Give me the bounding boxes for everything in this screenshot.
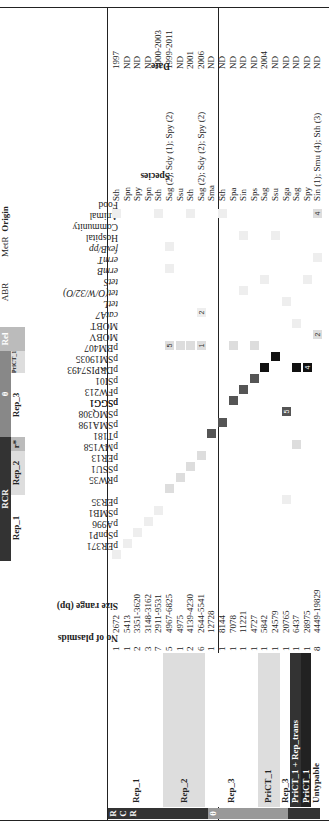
- matrix-cell: [229, 396, 238, 405]
- matrix-cell: [186, 341, 195, 350]
- column-mark: 1: [100, 367, 109, 371]
- matrix-cell: [144, 517, 153, 526]
- row-size: 11221: [239, 611, 248, 633]
- row-species: Spn: [144, 187, 153, 201]
- row-count: 1: [260, 647, 269, 652]
- row-count: 5: [165, 647, 174, 652]
- column-header: pSMB1: [88, 508, 118, 518]
- matrix-cell: 2: [313, 330, 322, 339]
- row-date: ND: [292, 56, 301, 69]
- matrix-cell: [239, 385, 248, 394]
- column-header: Hospital: [86, 233, 118, 243]
- row-count: 1: [282, 647, 291, 652]
- row-count: 1: [292, 647, 301, 652]
- matrix-cell: [271, 231, 280, 240]
- row-species: Sth: [154, 189, 163, 201]
- row-date: ND: [176, 56, 185, 69]
- row-date: 1999-2011: [165, 30, 174, 69]
- row-size: 5842: [260, 615, 269, 633]
- matrix-cell: [292, 440, 301, 449]
- row-count: 1: [207, 647, 216, 652]
- column-header: pBM407: [84, 343, 118, 353]
- row-species: Sma: [207, 185, 216, 201]
- row-date: 2000-2003: [154, 30, 163, 69]
- row-species: Spy: [303, 187, 312, 201]
- matrix-cell: [112, 550, 121, 559]
- row-date: 2004: [260, 51, 269, 69]
- row-date: ND: [303, 56, 312, 69]
- matrix-cell: [303, 275, 312, 284]
- column-header: pSMQ308: [78, 409, 118, 419]
- matrix-cell: [123, 539, 132, 548]
- row-species: Sps: [250, 188, 259, 201]
- column-header: Community: [73, 222, 118, 232]
- row-species: Sga: [282, 188, 291, 202]
- matrix-cell: [260, 363, 269, 372]
- row-count: 8: [313, 647, 322, 652]
- row-count: 1: [303, 647, 312, 652]
- row-species: Spy: [133, 187, 142, 201]
- matrix-cell: [133, 528, 142, 537]
- matrix-cell: 5: [165, 341, 174, 350]
- column-header: pRW35: [89, 475, 118, 485]
- column-header: pSMA198: [78, 420, 118, 430]
- matrix-cell: [250, 341, 259, 350]
- row-size: 5413: [123, 615, 132, 633]
- column-header: pSGG1: [89, 398, 118, 408]
- row-group-label: Rep_3: [280, 653, 291, 807]
- column-header: No of plasmids: [58, 633, 118, 643]
- matrix-cell: [282, 297, 291, 306]
- group-theta: θ: [0, 351, 11, 437]
- row-group-label: PriCT_1: [301, 653, 312, 807]
- row-size: 3351-3620: [133, 594, 142, 633]
- row-species: Ssu: [271, 188, 280, 201]
- row-species: Sth: [186, 189, 195, 201]
- matrix-cell: [197, 451, 206, 460]
- matrix-cell: [229, 341, 238, 350]
- matrix-cell: [165, 242, 174, 251]
- row-size: 2644-5541: [197, 594, 206, 633]
- matrix-cell: [186, 462, 195, 471]
- row-count: 2: [133, 647, 142, 652]
- group-origin: Origin: [0, 201, 25, 237]
- matrix-cell: [154, 209, 163, 218]
- row-size: 4727: [250, 615, 259, 633]
- row-count: 1: [218, 647, 227, 652]
- row-size: 4449-19829: [313, 590, 322, 634]
- column-header: ermT: [98, 255, 118, 265]
- row-count: 1: [112, 647, 121, 652]
- matrix-cell: [282, 495, 291, 504]
- row-species: Sag: [260, 188, 269, 202]
- row-date: ND: [144, 56, 153, 69]
- group-rcr: RCR: [0, 437, 11, 561]
- matrix-cell: [239, 286, 248, 295]
- matrix-cell: [313, 253, 322, 262]
- matrix-cell: [165, 264, 174, 273]
- matrix-cell: [292, 363, 301, 372]
- matrix-cell: [218, 209, 227, 218]
- column-header: tetL: [103, 299, 118, 309]
- column-header: fexB/pp: [89, 244, 118, 254]
- matrix-cell: [250, 374, 259, 383]
- matrix-cell: [260, 275, 269, 284]
- row-group-label: Untypable: [311, 653, 322, 807]
- row-size: 24579: [271, 611, 280, 634]
- row-size: 6437: [292, 615, 301, 633]
- row-species: Sag: [292, 188, 301, 202]
- row-count: 1: [176, 647, 185, 652]
- column-header: pDRPIS7493: [67, 365, 118, 375]
- row-date: ND: [271, 56, 280, 69]
- group-rel: Rel: [0, 327, 25, 351]
- row-count: 1: [123, 647, 132, 652]
- row-date: ND: [229, 56, 238, 69]
- row-size: 4967-6825: [165, 594, 174, 633]
- column-header: pT181: [93, 431, 118, 441]
- row-group-label: Rep_3: [205, 653, 258, 807]
- column-header: tetS: [104, 277, 118, 287]
- matrix-cell: [186, 209, 195, 218]
- matrix-cell: [207, 429, 216, 438]
- matrix-cell: [112, 209, 121, 218]
- row-count: 1: [250, 647, 259, 652]
- table-frame-right-border: [0, 7, 329, 8]
- row-size: 4139-4230: [186, 594, 195, 633]
